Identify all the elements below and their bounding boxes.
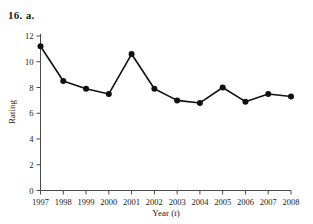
x-tick-label: 2001 <box>123 197 140 207</box>
x-tick-label: 2002 <box>146 197 163 207</box>
data-point <box>265 91 271 97</box>
data-point <box>60 78 66 84</box>
line-chart: 024681012 Rating 19971998199920002001200… <box>0 0 313 224</box>
x-tick-label: 2003 <box>169 197 186 207</box>
data-point <box>242 99 248 105</box>
y-axis: 024681012 Rating <box>7 31 41 196</box>
data-point <box>38 43 44 49</box>
x-tick-label: 2008 <box>283 197 300 207</box>
x-axis-variable: t <box>174 208 177 218</box>
data-point <box>288 94 294 100</box>
x-axis-title-word: Year <box>152 208 169 218</box>
data-point <box>151 86 157 92</box>
x-tick-label: 1997 <box>32 197 49 207</box>
x-tick-label: 2007 <box>260 197 277 207</box>
x-axis-ticks <box>41 191 292 195</box>
y-tick-label: 4 <box>29 134 34 144</box>
y-tick-label: 10 <box>25 57 34 67</box>
x-axis-title: Year (t) <box>152 208 179 218</box>
y-tick-label: 2 <box>29 160 33 170</box>
y-tick-label: 6 <box>29 108 33 118</box>
data-series-points <box>38 43 295 106</box>
x-tick-label: 1998 <box>55 197 72 207</box>
x-tick-label: 2006 <box>237 197 254 207</box>
data-point <box>129 51 135 57</box>
data-point <box>174 97 180 103</box>
data-point <box>197 100 203 106</box>
x-tick-label: 2005 <box>214 197 231 207</box>
y-axis-tick-labels: 024681012 <box>25 31 34 196</box>
chart-svg: 024681012 Rating 19971998199920002001200… <box>0 0 313 224</box>
data-series-line <box>41 46 292 103</box>
y-tick-label: 0 <box>29 186 33 196</box>
x-tick-label: 2000 <box>100 197 117 207</box>
y-tick-label: 12 <box>25 31 34 41</box>
x-axis: 1997199819992000200120022003200420052006… <box>32 191 300 219</box>
y-axis-title: Rating <box>7 100 17 124</box>
x-tick-label: 2004 <box>191 197 209 207</box>
data-point <box>220 85 226 91</box>
y-axis-ticks <box>37 36 41 191</box>
x-tick-label: 1999 <box>78 197 95 207</box>
y-tick-label: 8 <box>29 83 33 93</box>
data-point <box>106 91 112 97</box>
data-point <box>83 86 89 92</box>
x-axis-tick-labels: 1997199819992000200120022003200420052006… <box>32 197 300 207</box>
